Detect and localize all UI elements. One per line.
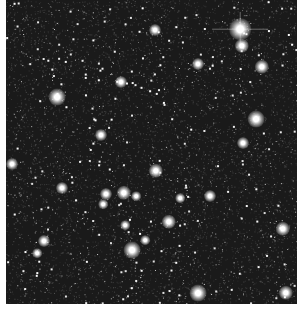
faint-stars-layer: [6, 0, 297, 304]
star-field-image: [6, 0, 297, 304]
